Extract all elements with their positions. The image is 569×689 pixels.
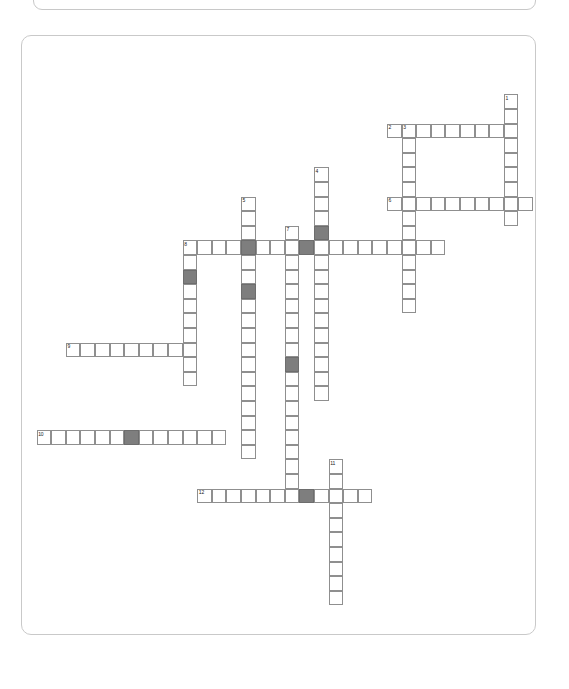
grid-cell[interactable] — [183, 284, 198, 299]
grid-cell[interactable] — [416, 124, 431, 139]
grid-cell[interactable] — [445, 124, 460, 139]
grid-cell[interactable] — [329, 547, 344, 562]
grid-cell[interactable] — [226, 240, 241, 255]
grid-cell[interactable] — [504, 197, 519, 212]
grid-cell[interactable] — [183, 357, 198, 372]
grid-cell[interactable] — [504, 109, 519, 124]
grid-cell[interactable] — [241, 430, 256, 445]
grid-cell[interactable] — [285, 284, 300, 299]
grid-cell[interactable] — [37, 430, 52, 445]
grid-cell[interactable] — [489, 197, 504, 212]
grid-cell[interactable] — [124, 343, 139, 358]
grid-cell[interactable] — [387, 197, 402, 212]
grid-cell[interactable] — [241, 416, 256, 431]
grid-cell[interactable] — [402, 270, 417, 285]
grid-cell[interactable] — [168, 430, 183, 445]
grid-cell[interactable] — [416, 240, 431, 255]
grid-cell[interactable] — [314, 197, 329, 212]
grid-cell[interactable] — [329, 240, 344, 255]
grid-cell[interactable] — [504, 211, 519, 226]
grid-cell[interactable] — [314, 343, 329, 358]
grid-cell[interactable] — [314, 357, 329, 372]
grid-cell[interactable] — [343, 489, 358, 504]
grid-cell[interactable] — [241, 489, 256, 504]
grid-cell[interactable] — [387, 124, 402, 139]
grid-cell[interactable] — [402, 299, 417, 314]
grid-cell[interactable] — [256, 489, 271, 504]
grid-cell[interactable] — [183, 372, 198, 387]
grid-cell[interactable] — [504, 124, 519, 139]
grid-cell[interactable] — [329, 489, 344, 504]
grid-cell[interactable] — [402, 226, 417, 241]
grid-cell[interactable] — [66, 430, 81, 445]
crossword-puzzle-card[interactable]: 123456789101112 — [21, 35, 536, 635]
grid-cell[interactable] — [285, 474, 300, 489]
grid-cell[interactable] — [110, 430, 125, 445]
grid-cell[interactable] — [285, 313, 300, 328]
grid-cell[interactable] — [241, 343, 256, 358]
grid-cell[interactable] — [110, 343, 125, 358]
grid-cell[interactable] — [416, 197, 431, 212]
grid-cell[interactable] — [285, 240, 300, 255]
grid-cell[interactable] — [285, 430, 300, 445]
grid-cell[interactable] — [285, 299, 300, 314]
grid-cell[interactable] — [285, 372, 300, 387]
grid-cell[interactable] — [402, 284, 417, 299]
grid-cell[interactable] — [329, 532, 344, 547]
grid-cell[interactable] — [387, 240, 402, 255]
grid-cell[interactable] — [431, 124, 446, 139]
grid-cell[interactable] — [183, 240, 198, 255]
grid-cell[interactable] — [402, 124, 417, 139]
grid-cell[interactable] — [402, 153, 417, 168]
grid-cell[interactable] — [241, 372, 256, 387]
grid-cell[interactable] — [270, 240, 285, 255]
grid-cell[interactable] — [285, 401, 300, 416]
grid-cell[interactable] — [80, 430, 95, 445]
grid-cell[interactable] — [358, 489, 373, 504]
grid-cell[interactable] — [241, 255, 256, 270]
grid-cell[interactable] — [343, 240, 358, 255]
grid-cell[interactable] — [241, 328, 256, 343]
grid-cell[interactable] — [241, 357, 256, 372]
grid-cell[interactable] — [241, 211, 256, 226]
grid-cell[interactable] — [402, 211, 417, 226]
grid-cell[interactable] — [66, 343, 81, 358]
grid-cell[interactable] — [197, 489, 212, 504]
grid-cell[interactable] — [518, 197, 533, 212]
grid-cell[interactable] — [314, 182, 329, 197]
grid-cell[interactable] — [329, 459, 344, 474]
grid-cell[interactable] — [139, 430, 154, 445]
grid-cell[interactable] — [183, 343, 198, 358]
crossword-grid[interactable]: 123456789101112 — [22, 36, 537, 636]
grid-cell[interactable] — [329, 518, 344, 533]
grid-cell[interactable] — [475, 197, 490, 212]
grid-cell[interactable] — [80, 343, 95, 358]
grid-cell[interactable] — [314, 313, 329, 328]
grid-cell[interactable] — [270, 489, 285, 504]
grid-cell[interactable] — [197, 430, 212, 445]
grid-cell[interactable] — [314, 372, 329, 387]
grid-cell[interactable] — [241, 197, 256, 212]
grid-cell[interactable] — [285, 489, 300, 504]
grid-cell[interactable] — [212, 489, 227, 504]
grid-cell[interactable] — [153, 430, 168, 445]
grid-cell[interactable] — [402, 197, 417, 212]
grid-cell[interactable] — [285, 343, 300, 358]
grid-cell[interactable] — [402, 138, 417, 153]
grid-cell[interactable] — [372, 240, 387, 255]
grid-cell[interactable] — [489, 124, 504, 139]
grid-cell[interactable] — [314, 386, 329, 401]
grid-cell[interactable] — [226, 489, 241, 504]
grid-cell[interactable] — [314, 328, 329, 343]
grid-cell[interactable] — [329, 474, 344, 489]
grid-cell[interactable] — [314, 299, 329, 314]
grid-cell[interactable] — [402, 182, 417, 197]
grid-cell[interactable] — [314, 270, 329, 285]
grid-cell[interactable] — [504, 94, 519, 109]
grid-cell[interactable] — [475, 124, 490, 139]
grid-cell[interactable] — [460, 124, 475, 139]
grid-cell[interactable] — [183, 255, 198, 270]
grid-cell[interactable] — [431, 240, 446, 255]
grid-cell[interactable] — [212, 240, 227, 255]
grid-cell[interactable] — [402, 240, 417, 255]
